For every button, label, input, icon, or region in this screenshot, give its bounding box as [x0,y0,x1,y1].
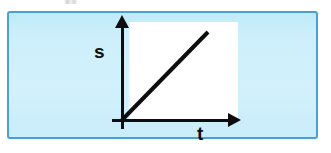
arrow-up-icon [115,15,129,28]
y-axis-line [121,19,124,129]
figure-canvas: s t [0,0,331,153]
x-axis-label: t [197,124,203,143]
cropped-text-artifact [64,0,78,4]
arrow-right-icon [228,113,241,127]
plot-panel [130,22,238,122]
y-axis-label: s [94,42,105,61]
x-axis-line [112,119,236,122]
